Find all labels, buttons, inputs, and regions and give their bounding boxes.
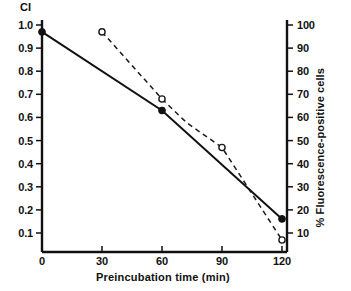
right-tick-label: 20 xyxy=(297,205,309,216)
right-tick-label: 80 xyxy=(297,66,309,77)
right-tick-label: 40 xyxy=(297,159,309,170)
right-tick-label: 70 xyxy=(297,89,309,100)
left-tick-label: 0.5 xyxy=(0,136,33,147)
right-tick-label: 60 xyxy=(297,112,309,123)
data-point-open xyxy=(99,29,105,35)
series-ci-markers xyxy=(39,29,286,223)
right-tick-label: 10 xyxy=(297,228,309,239)
data-point-filled xyxy=(39,29,46,36)
data-point-open xyxy=(219,144,225,150)
right-tick-label: 50 xyxy=(297,136,309,147)
left-tick-label: 1.0 xyxy=(0,20,33,31)
data-point-filled xyxy=(279,216,286,223)
x-tick-label: 30 xyxy=(92,256,112,267)
series-ci-line xyxy=(42,32,282,219)
left-tick-label: 0.8 xyxy=(0,66,33,77)
left-tick-label: 0.4 xyxy=(0,159,33,170)
x-tick-label: 0 xyxy=(32,256,52,267)
chart-figure: CI 1.0 0.9 0.8 0.7 0.6 0.5 0.4 0.3 0.2 0… xyxy=(0,0,351,291)
left-tick-label: 0.2 xyxy=(0,205,33,216)
data-point-open xyxy=(159,96,165,102)
left-tick-label: 0.9 xyxy=(0,43,33,54)
right-tick-label: 30 xyxy=(297,182,309,193)
left-tick-label: 0.6 xyxy=(0,112,33,123)
x-tick-label: 120 xyxy=(269,256,295,267)
series-fluorescence-markers xyxy=(99,29,285,243)
left-tick-label: 0.7 xyxy=(0,89,33,100)
series-fluorescence-line xyxy=(102,32,282,240)
left-tick-label: 0.3 xyxy=(0,182,33,193)
left-axis-title: CI xyxy=(20,2,31,13)
right-tick-label: 90 xyxy=(297,43,309,54)
data-point-filled xyxy=(159,107,166,114)
data-point-open xyxy=(279,237,285,243)
x-axis-title: Preincubation time (min) xyxy=(96,272,230,283)
x-tick-label: 90 xyxy=(212,256,232,267)
x-tick-label: 60 xyxy=(152,256,172,267)
left-tick-label: 0.1 xyxy=(0,228,33,239)
right-tick-label: 100 xyxy=(297,20,315,31)
right-axis-title: % Fluorescence-positive cells xyxy=(315,68,326,227)
